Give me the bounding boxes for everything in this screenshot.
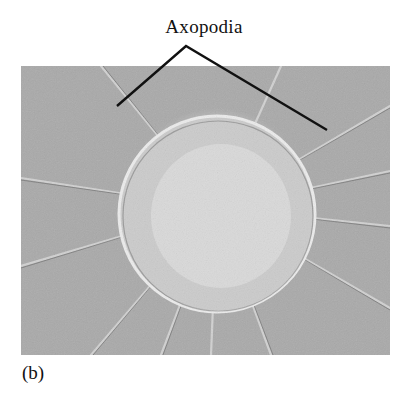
axopodia-label: Axopodia bbox=[0, 16, 408, 38]
micrograph-image bbox=[21, 66, 390, 355]
figure-caption: (b) bbox=[22, 362, 44, 384]
